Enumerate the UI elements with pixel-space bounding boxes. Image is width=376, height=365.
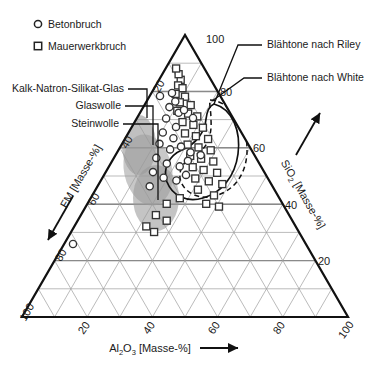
legend-label-betonbruch: Betonbruch: [48, 18, 102, 30]
ternary-diagram-figure: 20 40 60 80 100 20 40 60 80 20 40 60 80 …: [0, 0, 376, 365]
marker-square: [189, 164, 196, 171]
marker-circle: [177, 143, 184, 150]
marker-square: [205, 178, 212, 185]
marker-square: [192, 133, 199, 140]
marker-circle: [182, 171, 189, 178]
marker-square: [210, 158, 217, 165]
marker-circle: [159, 129, 166, 136]
marker-square: [200, 167, 207, 174]
marker-square: [163, 217, 170, 224]
marker-square: [163, 200, 170, 207]
marker-square: [194, 186, 201, 193]
callout-label-steinwolle: Steinwolle: [71, 117, 119, 129]
marker-square: [199, 124, 206, 131]
ternary-svg-canvas: 20 40 60 80 100 20 40 60 80 20 40 60 80 …: [0, 0, 376, 365]
marker-circle: [149, 169, 156, 176]
marker-circle: [146, 183, 153, 190]
tick-right-60: 60: [253, 142, 265, 154]
tick-right-20: 20: [318, 255, 330, 267]
marker-circle: [184, 157, 191, 164]
marker-circle: [187, 149, 194, 156]
marker-square: [203, 200, 210, 207]
marker-square: [192, 175, 199, 182]
marker-square: [216, 203, 223, 210]
marker-square: [205, 136, 212, 143]
marker-circle: [172, 98, 179, 105]
marker-circle: [156, 140, 163, 147]
marker-circle: [176, 163, 183, 170]
marker-circle: [170, 135, 177, 142]
marker-square: [173, 65, 180, 72]
tick-apex-100: 100: [206, 33, 224, 45]
marker-circle: [173, 177, 180, 184]
marker-circle: [160, 174, 167, 181]
legend-circle-open-icon: [34, 20, 41, 27]
marker-circle: [153, 154, 160, 161]
axis-bottom-unit: [Masse-%]: [136, 342, 191, 354]
marker-square: [190, 121, 197, 128]
marker-circle: [197, 152, 204, 159]
callout-label-blaehtone-nach-white: Blähtone nach White: [267, 71, 364, 83]
marker-circle: [166, 104, 173, 111]
marker-square: [207, 147, 214, 154]
marker-circle: [172, 123, 179, 130]
marker-square: [176, 195, 183, 202]
marker-circle: [163, 160, 170, 167]
marker-square: [214, 169, 221, 176]
axis-bottom-al: Al: [109, 342, 119, 354]
callout-label-blaehtone-nach-riley: Blähtone nach Riley: [267, 38, 361, 50]
marker-square: [151, 229, 158, 236]
tick-right-40: 40: [285, 199, 297, 211]
marker-square: [179, 119, 186, 126]
marker-square: [219, 181, 226, 188]
callout-label-glaswolle: Glaswolle: [75, 99, 121, 111]
marker-square: [143, 223, 150, 230]
marker-square: [182, 130, 189, 137]
legend-label-mauerwerkbruch: Mauerwerkbruch: [48, 40, 126, 52]
marker-square: [179, 85, 186, 92]
marker-circle: [180, 106, 187, 113]
marker-circle: [168, 89, 175, 96]
marker-square: [152, 212, 159, 219]
marker-circle: [69, 240, 76, 247]
callout-label-kalk-natron-silikat-glas: Kalk-Natron-Silikat-Glas: [12, 82, 124, 94]
marker-square: [211, 192, 218, 199]
legend-square-open-icon: [34, 42, 41, 49]
marker-circle: [167, 146, 174, 153]
marker-circle: [163, 115, 170, 122]
marker-square: [187, 102, 194, 109]
marker-square: [195, 144, 202, 151]
marker-circle: [189, 114, 196, 121]
